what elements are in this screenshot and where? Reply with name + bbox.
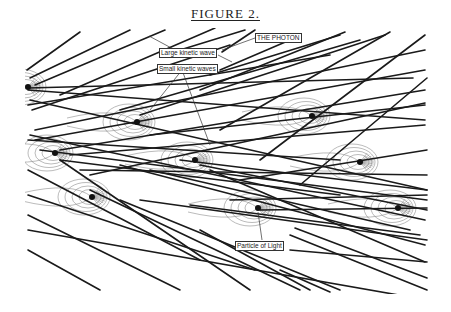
label-small-kinetic-waves: Small kinetic waves	[157, 64, 218, 74]
photon-line	[260, 35, 425, 160]
photon-line	[290, 235, 427, 290]
particle-dot	[192, 157, 198, 163]
diagram-canvas	[0, 0, 451, 312]
photon-line	[28, 170, 200, 260]
pointer-line	[150, 70, 182, 110]
photon-line	[28, 140, 340, 160]
photon-line	[180, 30, 245, 50]
label-large-kinetic-wave: Large kinetic wave	[159, 48, 217, 58]
particle-dot	[25, 84, 31, 90]
pointer-line	[182, 70, 210, 145]
particle-dot	[309, 113, 315, 119]
photon-line	[28, 230, 427, 300]
photon-line	[300, 78, 427, 185]
particle-dot	[89, 194, 95, 200]
photon-line	[27, 32, 80, 70]
photon-line	[200, 230, 310, 290]
wave-tail	[0, 78, 28, 96]
particle-dot	[52, 150, 58, 156]
particle-dot	[255, 205, 261, 211]
pointer-line	[218, 55, 232, 62]
photon-line	[295, 228, 427, 278]
photon-line	[222, 30, 255, 52]
photon-line	[28, 250, 100, 290]
label-particle-of-light: Particle of Light	[235, 241, 284, 251]
label-the-photon: THE PHOTON	[255, 33, 302, 43]
particle-dot	[395, 205, 401, 211]
pointer-line	[222, 38, 255, 50]
particle-dot	[134, 119, 140, 125]
particle-dot	[357, 159, 363, 165]
photon-line	[200, 165, 427, 210]
